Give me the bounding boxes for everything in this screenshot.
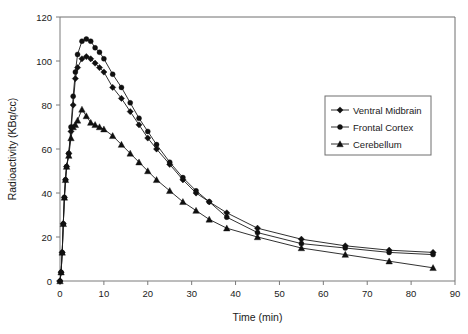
y-tick-label-100: 100 — [36, 56, 52, 67]
marker-circle — [119, 85, 124, 90]
marker-circle — [128, 100, 133, 105]
x-tick-label-60: 60 — [318, 288, 329, 299]
marker-circle — [145, 129, 150, 134]
marker-circle — [73, 70, 78, 75]
marker-triangle — [83, 113, 90, 119]
marker-circle — [207, 199, 212, 204]
marker-triangle — [109, 133, 116, 139]
marker-circle — [97, 50, 102, 55]
marker-circle — [194, 188, 199, 193]
marker-circle — [431, 252, 436, 257]
radioactivity-time-chart: 0102030405060708090020406080100120Time (… — [0, 0, 468, 334]
x-tick-label-0: 0 — [57, 288, 62, 299]
marker-triangle — [87, 119, 94, 125]
series-frontal-cortex — [58, 37, 436, 284]
marker-triangle — [79, 106, 86, 112]
marker-circle — [180, 175, 185, 180]
y-tick-label-80: 80 — [41, 100, 52, 111]
marker-circle — [93, 45, 98, 50]
x-tick-label-40: 40 — [230, 288, 241, 299]
legend: Ventral MidbrainFrontal CortexCerebellum — [325, 96, 431, 155]
marker-circle — [224, 215, 229, 220]
y-tick-label-40: 40 — [41, 188, 52, 199]
x-axis-title: Time (min) — [233, 311, 283, 323]
x-tick-label-30: 30 — [186, 288, 197, 299]
x-tick-label-90: 90 — [450, 288, 461, 299]
series-line — [60, 57, 433, 281]
marker-circle — [75, 52, 80, 57]
marker-circle — [101, 56, 106, 61]
marker-circle — [167, 160, 172, 165]
x-tick-label-10: 10 — [99, 288, 110, 299]
marker-circle — [387, 250, 392, 255]
legend-item-label: Frontal Cortex — [353, 122, 413, 133]
y-tick-label-120: 120 — [36, 12, 52, 23]
marker-triangle — [193, 207, 200, 213]
marker-circle — [338, 125, 343, 130]
marker-triangle — [224, 225, 231, 231]
x-tick-label-50: 50 — [274, 288, 285, 299]
y-axis-title: Radioactivity (KBq/cc) — [6, 98, 18, 201]
y-tick-label-20: 20 — [41, 232, 52, 243]
x-tick-label-80: 80 — [406, 288, 417, 299]
legend-item-label: Ventral Midbrain — [353, 105, 422, 116]
series-line — [60, 39, 433, 281]
marker-circle — [110, 72, 115, 77]
marker-circle — [71, 94, 76, 99]
marker-circle — [154, 142, 159, 147]
marker-diamond — [136, 122, 142, 128]
marker-circle — [137, 116, 142, 121]
marker-circle — [88, 39, 93, 44]
x-tick-label-70: 70 — [362, 288, 373, 299]
x-tick-label-20: 20 — [142, 288, 153, 299]
marker-triangle — [74, 117, 81, 123]
marker-circle — [343, 246, 348, 251]
marker-diamond — [127, 108, 133, 114]
legend-item-label: Cerebellum — [353, 139, 402, 150]
marker-diamond — [70, 102, 76, 108]
y-tick-label-60: 60 — [41, 144, 52, 155]
y-tick-label-0: 0 — [47, 276, 52, 287]
marker-triangle — [68, 135, 75, 141]
chart-canvas: 0102030405060708090020406080100120Time (… — [0, 0, 468, 334]
series-ventral-midbrain — [57, 53, 436, 284]
marker-triangle — [206, 216, 213, 222]
